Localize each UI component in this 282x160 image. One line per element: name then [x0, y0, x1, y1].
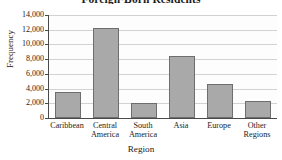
y-tick-mark — [45, 44, 49, 45]
y-tick-mark — [45, 15, 49, 16]
y-tick-label: 8,000 — [26, 55, 44, 63]
y-tick-mark — [45, 74, 49, 75]
y-tick-label: 10,000 — [22, 40, 44, 48]
chart-title: Foreign-Born Residents — [0, 0, 282, 4]
gridline — [49, 44, 277, 45]
y-tick-mark — [45, 118, 49, 119]
y-tick-label: 12,000 — [22, 26, 44, 34]
bar-chart: Foreign-Born Residents Frequency 02,0004… — [0, 0, 282, 160]
x-tick-label: Other Regions — [238, 121, 276, 140]
bar — [207, 84, 232, 118]
y-tick-mark — [45, 59, 49, 60]
y-axis-label: Frequency — [5, 19, 15, 79]
bar — [169, 56, 194, 118]
y-tick-label: 14,000 — [22, 11, 44, 19]
x-tick-label: Caribbean — [48, 121, 86, 130]
y-tick-label: 0 — [40, 114, 44, 122]
y-tick-mark — [45, 89, 49, 90]
gridline — [49, 30, 277, 31]
plot-area: 02,0004,0006,0008,00010,00012,00014,000 — [48, 15, 277, 119]
y-tick-mark — [45, 103, 49, 104]
gridline — [49, 74, 277, 75]
y-tick-label: 4,000 — [26, 85, 44, 93]
bar — [131, 103, 156, 118]
bar — [93, 28, 118, 118]
x-axis-label: Region — [0, 144, 282, 154]
gridline — [49, 15, 277, 16]
x-tick-label: Asia — [162, 121, 200, 130]
x-tick-label: Central America — [86, 121, 124, 140]
gridline — [49, 103, 277, 104]
y-tick-label: 2,000 — [26, 99, 44, 107]
y-tick-label: 6,000 — [26, 70, 44, 78]
bar — [245, 101, 270, 118]
bar — [55, 92, 80, 118]
gridline — [49, 59, 277, 60]
x-tick-label: South America — [124, 121, 162, 140]
y-tick-mark — [45, 30, 49, 31]
gridline — [49, 89, 277, 90]
x-tick-label: Europe — [200, 121, 238, 130]
